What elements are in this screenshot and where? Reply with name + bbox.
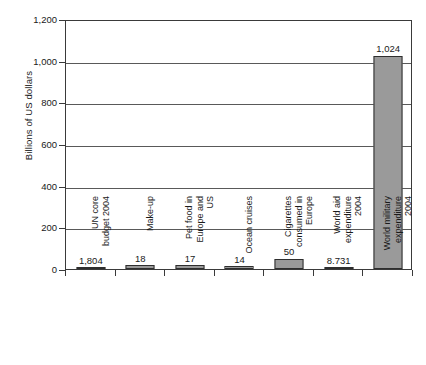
- y-tick-label: 1,200: [3, 15, 57, 25]
- x-tick-mark: [65, 270, 66, 276]
- y-tick-label: 800: [3, 99, 57, 109]
- x-category-label-line: Cigarettes: [283, 196, 294, 280]
- x-category-label-line: Ocean cruises: [244, 196, 255, 280]
- x-category-label-line: UN core: [90, 196, 101, 280]
- x-category-label-line: US: [205, 196, 216, 280]
- bar-value-label: 1,024: [376, 44, 400, 54]
- x-category-label-line: Europe: [304, 196, 315, 280]
- x-category-label: World militaryexpenditure2004: [382, 196, 414, 280]
- y-axis-title: Billions of US dollars: [23, 26, 34, 206]
- x-category-label: Make-up: [145, 196, 156, 280]
- bar-slot: 14: [215, 21, 265, 269]
- x-category-label: Cigarettesconsumed inEurope: [283, 196, 315, 280]
- x-tick-mark: [263, 270, 264, 276]
- x-tick-mark: [164, 270, 165, 276]
- y-tick-label: 200: [3, 224, 57, 234]
- bar-chart: Billions of US dollars 02004006008001,00…: [0, 0, 426, 365]
- y-tick-label: 1,000: [3, 57, 57, 67]
- x-category-label-line: World military: [382, 196, 393, 280]
- x-category-label-line: budget 2004: [100, 196, 111, 280]
- x-category-label-line: expenditure: [343, 196, 354, 280]
- bar-slot: 18: [116, 21, 166, 269]
- x-category-label-line: Pet food in: [184, 196, 195, 280]
- x-tick-mark: [115, 270, 116, 276]
- y-tick-label: 400: [3, 182, 57, 192]
- x-category-label: World aidexpenditure2004: [332, 196, 364, 280]
- x-category-label-line: expenditure: [392, 196, 403, 280]
- x-category-label-line: Make-up: [145, 196, 156, 280]
- x-category-label: UN corebudget 2004: [90, 196, 111, 280]
- x-category-label-line: 2004: [403, 196, 414, 280]
- y-tick-label: 0: [3, 265, 57, 275]
- x-category-label-line: Europe and: [194, 196, 205, 280]
- x-category-label-line: World aid: [332, 196, 343, 280]
- x-category-label-line: 2004: [353, 196, 364, 280]
- x-category-label: Ocean cruises: [244, 196, 255, 280]
- x-category-label-line: consumed in: [293, 196, 304, 280]
- y-tick-label: 600: [3, 140, 57, 150]
- x-category-label: Pet food inEurope andUS: [184, 196, 216, 280]
